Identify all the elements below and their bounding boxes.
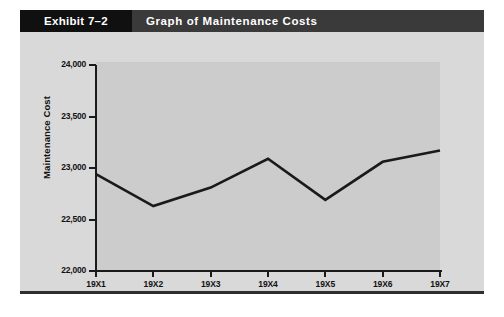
exhibit-header-bar: Exhibit 7–2 Graph of Maintenance Costs bbox=[20, 10, 484, 32]
exhibit-number-label: Exhibit 7–2 bbox=[44, 15, 108, 27]
exhibit-title-label: Graph of Maintenance Costs bbox=[146, 15, 318, 27]
exhibit-title-block: Graph of Maintenance Costs bbox=[132, 10, 484, 32]
chart-data-svg bbox=[20, 32, 484, 292]
exhibit-panel: Exhibit 7–2 Graph of Maintenance Costs 2… bbox=[20, 10, 484, 292]
maintenance-cost-line bbox=[96, 150, 440, 206]
bottom-divider-rule bbox=[20, 291, 484, 294]
chart-region: 22,00022,50023,00023,50024,000 19X119X21… bbox=[20, 32, 484, 292]
exhibit-number-block: Exhibit 7–2 bbox=[20, 10, 132, 32]
